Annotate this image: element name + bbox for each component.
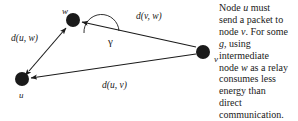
caption-line: intermediate bbox=[219, 50, 297, 62]
caption-line: consumes less bbox=[219, 73, 297, 85]
caption-text: communication. bbox=[219, 109, 284, 120]
caption-text: . For some bbox=[245, 26, 288, 37]
edge-label-u-w: d(u, w) bbox=[11, 33, 38, 43]
caption-line: node w as a relay bbox=[219, 62, 297, 74]
caption-line: communication. bbox=[219, 109, 297, 121]
caption-line: energy than bbox=[219, 85, 297, 97]
caption-line: g, using bbox=[219, 38, 297, 50]
caption-text: Node bbox=[219, 2, 243, 13]
caption-text: node bbox=[219, 62, 241, 73]
edge-v-u bbox=[31, 54, 196, 78]
caption-text: consumes less bbox=[219, 73, 276, 84]
caption-text: energy than bbox=[219, 85, 266, 96]
caption-text: , using bbox=[224, 38, 251, 49]
caption-variable: w bbox=[241, 62, 248, 73]
caption-text: send a packet to bbox=[219, 14, 283, 25]
relay-network-diagram: d(u, w) d(v, w) d(u, v) w u v γ bbox=[0, 0, 218, 121]
node-label-w: w bbox=[62, 6, 68, 16]
figure-caption-text: Node u mustsend a packet tonode v. For s… bbox=[219, 2, 297, 121]
caption-text: as a relay bbox=[248, 62, 288, 73]
caption-text: direct bbox=[219, 97, 242, 108]
caption-line: direct bbox=[219, 97, 297, 109]
edge-v-w bbox=[82, 22, 196, 47]
caption-line: node v. For some bbox=[219, 26, 297, 38]
caption-text: must bbox=[248, 2, 270, 13]
node-label-u: u bbox=[19, 90, 24, 100]
caption-text: node bbox=[219, 26, 241, 37]
edge-label-v-u: d(u, v) bbox=[102, 80, 127, 90]
caption-text: intermediate bbox=[219, 50, 269, 61]
node-u bbox=[15, 72, 29, 86]
diagram-canvas bbox=[0, 0, 218, 121]
caption-line: send a packet to bbox=[219, 14, 297, 26]
caption-line: Node u must bbox=[219, 2, 297, 14]
angle-label-gamma: γ bbox=[108, 35, 113, 47]
node-label-v: v bbox=[214, 54, 218, 64]
figure-panel: d(u, w) d(v, w) d(u, v) w u v γ Node u m… bbox=[0, 0, 298, 121]
node-v bbox=[196, 45, 210, 59]
edge-label-v-w: d(v, w) bbox=[136, 11, 162, 21]
node-w bbox=[66, 13, 80, 27]
